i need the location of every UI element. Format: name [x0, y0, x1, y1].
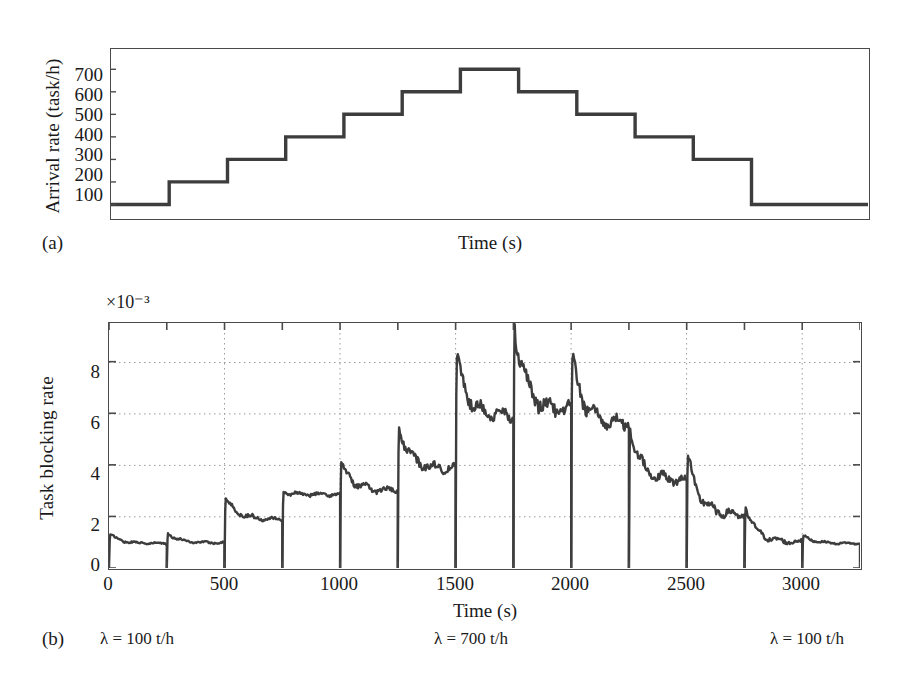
blocking-rate-burst	[687, 456, 745, 568]
panel-a-ytick-300: 300	[55, 144, 103, 166]
panel-b-ytick-4: 4	[62, 463, 100, 485]
panel-b-horizontal-gridlines	[109, 363, 860, 517]
panel-b-blocking-rate-svg	[109, 323, 860, 568]
panel-b-x-axis-label: Time (s)	[108, 600, 862, 622]
blocking-rate-burst	[109, 535, 167, 569]
panel-a-staircase-svg	[111, 49, 868, 218]
figure-container: Arrival rate (task/h) 700 600 500 400 30…	[0, 0, 914, 683]
panel-a-x-axis-label: Time (s)	[110, 232, 870, 254]
blocking-rate-burst	[802, 536, 860, 568]
panel-a-ytick-700: 700	[55, 64, 103, 86]
panel-b-xtick-500: 500	[199, 573, 249, 595]
blocking-rate-burst	[571, 354, 629, 568]
panel-b-y-axis-label: Task blocking rate	[36, 348, 58, 548]
panel-a-ytick-500: 500	[55, 104, 103, 126]
blocking-rate-burst	[225, 498, 283, 568]
arrival-rate-line	[111, 69, 868, 204]
blocking-rate-burst	[167, 533, 225, 568]
blocking-rate-burst	[456, 354, 514, 568]
blocking-rate-burst	[398, 427, 456, 568]
blocking-rate-burst	[629, 429, 687, 568]
panel-a-ytick-100: 100	[55, 184, 103, 206]
panel-b-letter: (b)	[42, 628, 64, 650]
lambda-annotation-left: λ = 100 t/h	[100, 629, 174, 649]
panel-a-ytick-200: 200	[55, 164, 103, 186]
panel-b-exponent-label: ×10⁻³	[106, 291, 150, 313]
panel-b-plot-frame	[108, 322, 862, 570]
panel-b-ytick-6: 6	[62, 412, 100, 434]
panel-b-ytick-8: 8	[62, 361, 100, 383]
panel-b-xtick-1000: 1000	[314, 573, 364, 595]
panel-a-tick-marks	[111, 69, 116, 204]
panel-b-xtick-3000: 3000	[776, 573, 826, 595]
panel-a-ytick-600: 600	[55, 84, 103, 106]
blocking-rate-burst	[513, 324, 571, 568]
task-blocking-rate-trace	[109, 324, 860, 568]
blocking-rate-burst	[282, 492, 340, 569]
panel-a-ytick-400: 400	[55, 124, 103, 146]
panel-b-xtick-2000: 2000	[545, 573, 595, 595]
lambda-annotation-right: λ = 100 t/h	[770, 629, 844, 649]
panel-a-letter: (a)	[42, 232, 63, 254]
blocking-rate-burst	[745, 507, 803, 568]
panel-b-xtick-1500: 1500	[430, 573, 480, 595]
panel-b-tick-marks	[109, 323, 860, 568]
panel-b-xtick-0: 0	[83, 573, 133, 595]
panel-b-ytick-2: 2	[62, 514, 100, 536]
blocking-rate-burst	[340, 462, 398, 568]
panel-b-xtick-2500: 2500	[661, 573, 711, 595]
lambda-annotation-center: λ = 700 t/h	[434, 629, 508, 649]
panel-a-plot-frame	[110, 48, 870, 220]
